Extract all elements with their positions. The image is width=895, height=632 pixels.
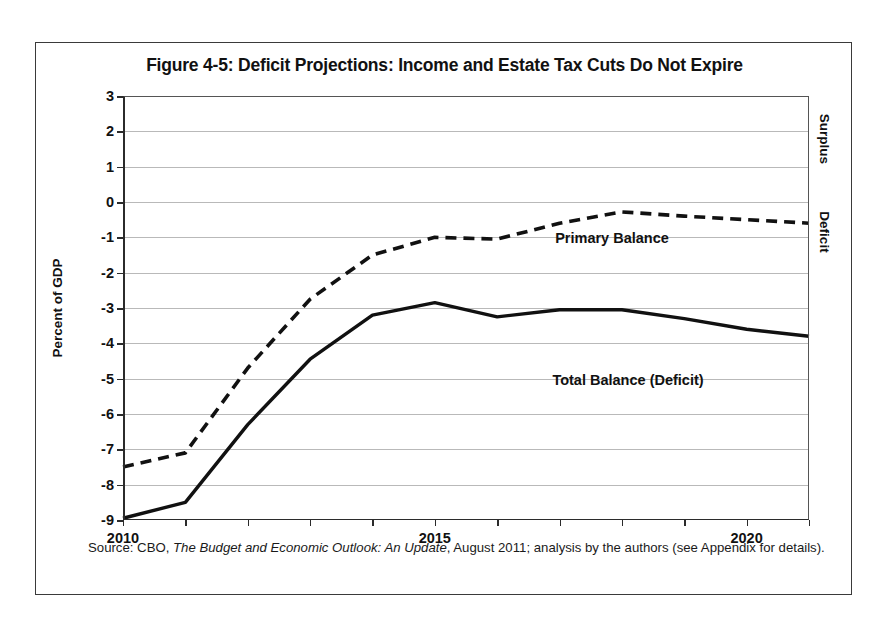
y-tick-label: 3 [106,88,114,104]
series-label-total-balance: Total Balance (Deficit) [552,372,703,388]
y-tick-label: -5 [101,371,114,387]
y-tick-label: -1 [101,229,114,245]
x-tick-mark [248,520,249,526]
source-note: Source: CBO, The Budget and Economic Out… [88,538,828,557]
y-tick-label: 2 [106,123,114,139]
source-suffix: , August 2011; analysis by the authors (… [447,540,825,555]
x-tick-mark [372,520,373,526]
y-tick-label: 0 [106,194,114,210]
source-publication-title: The Budget and Economic Outlook: An Upda… [173,540,447,555]
figure-frame: Figure 4-5: Deficit Projections: Income … [35,42,852,595]
x-tick-mark [497,520,498,526]
y-tick-label: -7 [101,441,114,457]
y-tick-label: -9 [101,512,114,528]
deficit-side-label: Deficit [817,211,832,252]
x-tick-mark [684,520,685,526]
x-tick-mark [435,520,436,526]
surplus-side-label: Surplus [817,114,832,164]
x-tick-mark [622,520,623,526]
series-label-primary-balance: Primary Balance [555,230,669,246]
y-tick-label: -8 [101,477,114,493]
y-tick-label: 1 [106,159,114,175]
y-axis-title: Percent of GDP [50,258,65,357]
source-prefix: Source: CBO, [88,540,173,555]
figure-title: Figure 4-5: Deficit Projections: Income … [36,55,853,76]
x-tick-mark [809,520,810,526]
x-tick-mark [560,520,561,526]
y-tick-label: -2 [101,265,114,281]
x-tick-mark [310,520,311,526]
plot-border [123,96,809,520]
y-tick-label: -3 [101,300,114,316]
x-tick-mark [123,520,124,526]
plot-area: 3210-1-2-3-4-5-6-7-8-9 201020152020 [123,96,809,520]
y-tick-label: -6 [101,406,114,422]
x-tick-mark [185,520,186,526]
y-tick-label: -4 [101,335,114,351]
x-tick-mark [747,520,748,526]
